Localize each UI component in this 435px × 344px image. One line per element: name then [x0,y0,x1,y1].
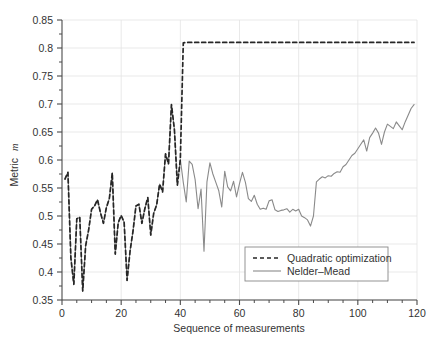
x-tick-label: 60 [234,307,246,319]
chart-background [0,0,435,344]
y-tick-label: 0.45 [33,238,54,250]
x-tick-label: 20 [115,307,127,319]
x-tick-label: 0 [59,307,65,319]
chart-legend[interactable]: Quadratic optimizationNelder–Mead [245,247,392,281]
svg-text:Metric m: Metric m [8,143,20,187]
x-axis-label: Sequence of measurements [173,322,304,334]
y-tick-label: 0.4 [38,266,53,278]
y-axis-label: Metric m [8,143,20,187]
x-tick-label: 100 [349,307,367,319]
line-chart: 0.350.40.450.50.550.60.650.70.750.80.850… [0,0,435,344]
y-axis-label-symbol: m [9,143,20,151]
y-tick-label: 0.55 [33,182,54,194]
y-tick-label: 0.35 [33,294,54,306]
y-tick-label: 0.6 [38,154,53,166]
x-tick-label: 80 [293,307,305,319]
x-tick-label: 40 [174,307,186,319]
y-tick-label: 0.75 [33,70,54,82]
legend-label-quadratic-optimization: Quadratic optimization [287,252,392,264]
y-tick-label: 0.8 [38,42,53,54]
y-tick-label: 0.65 [33,126,54,138]
x-tick-label: 120 [408,307,426,319]
legend-label-nelder-mead: Nelder–Mead [287,265,350,277]
y-tick-label: 0.7 [38,98,53,110]
y-tick-label: 0.5 [38,210,53,222]
y-tick-label: 0.85 [33,14,54,26]
y-axis-label-text: Metric [8,158,20,187]
chart-figure: 0.350.40.450.50.550.60.650.70.750.80.850… [0,0,435,344]
